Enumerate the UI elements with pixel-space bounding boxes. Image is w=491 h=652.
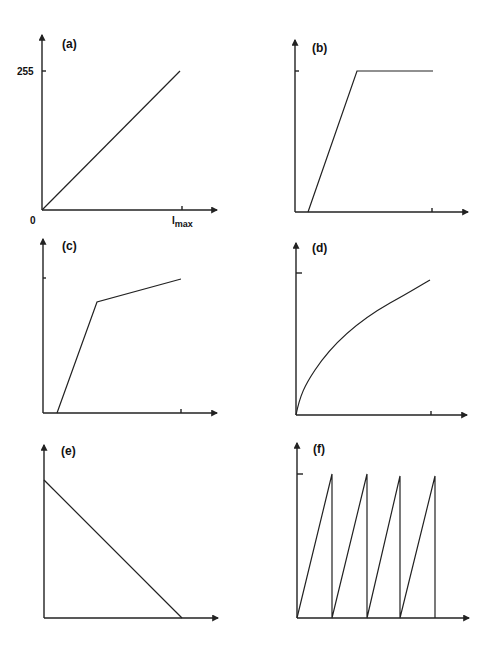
y-tick-label: 255 <box>17 66 34 77</box>
origin-label: 0 <box>30 215 36 226</box>
figure-canvas: (a) 255 0 Imax (b) (c) (d) (e) <box>0 0 491 652</box>
panel-d: (d) <box>296 241 467 415</box>
panel-label: (f) <box>313 442 325 456</box>
panel-label: (e) <box>61 444 76 458</box>
curve <box>57 279 181 413</box>
panel-b: (b) <box>295 40 468 212</box>
panel-label: (c) <box>62 239 77 253</box>
panel-a: (a) 255 0 Imax <box>17 35 217 229</box>
curve <box>297 474 435 618</box>
panel-label: (b) <box>312 41 327 55</box>
curve <box>42 71 180 210</box>
panel-c: (c) <box>43 239 217 413</box>
x-tick-label: Imax <box>172 215 193 229</box>
panel-label: (a) <box>62 37 77 51</box>
curve <box>296 280 430 415</box>
panel-label: (d) <box>312 241 327 255</box>
panel-e: (e) <box>44 444 218 618</box>
curve <box>308 71 433 212</box>
curve <box>44 480 182 618</box>
panel-f: (f) <box>297 442 469 618</box>
